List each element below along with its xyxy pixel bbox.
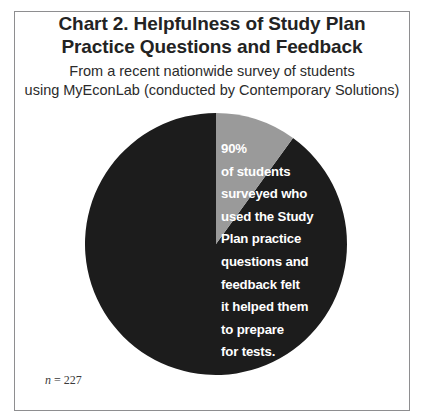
callout-line-8: to prepare	[221, 319, 339, 342]
callout-line-0: 90%	[221, 138, 339, 161]
sample-size-equals: =	[54, 373, 61, 387]
callout-line-9: for tests.	[221, 341, 339, 364]
sample-size-note: n = 227	[45, 373, 82, 388]
callout-line-3: used the Study	[221, 206, 339, 229]
callout-line-5: questions and	[221, 251, 339, 274]
callout-line-7: it helped them	[221, 296, 339, 319]
callout-line-4: Plan practice	[221, 228, 339, 251]
callout-line-6: feedback felt	[221, 274, 339, 297]
pie-callout-text: 90% of students surveyed who used the St…	[221, 138, 339, 364]
sample-size-value: 227	[64, 373, 82, 387]
callout-line-1: of students	[221, 161, 339, 184]
callout-line-2: surveyed who	[221, 183, 339, 206]
